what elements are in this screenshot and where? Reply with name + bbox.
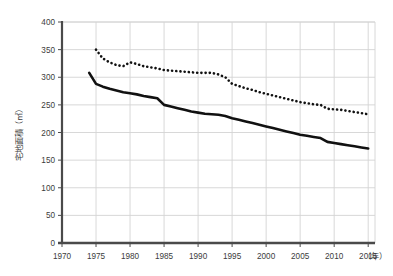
x-axis-unit-label: （年） xyxy=(363,251,387,261)
y-axis-tick-label: 300 xyxy=(41,73,55,82)
x-axis-tick-label: 2000 xyxy=(257,252,276,261)
y-axis-tick-label: 0 xyxy=(50,239,55,248)
x-axis-tick-label: 1975 xyxy=(87,252,106,261)
y-axis-tick-label: 50 xyxy=(46,211,56,220)
x-axis-tick-label: 1985 xyxy=(155,252,174,261)
land-area-line-chart: 050100150200250300350400 197019751980198… xyxy=(0,0,393,276)
y-axis-tick-label: 350 xyxy=(41,46,55,55)
x-axis-tick-label: 2010 xyxy=(325,252,344,261)
x-axis-tick-label: 2005 xyxy=(291,252,310,261)
x-axis-tick-label: 1980 xyxy=(121,252,140,261)
x-axis-tick-label: 1995 xyxy=(223,252,242,261)
y-axis-tick-label: 400 xyxy=(41,18,55,27)
chart-container: 050100150200250300350400 197019751980198… xyxy=(0,0,393,276)
y-axis-tick-label: 100 xyxy=(41,184,55,193)
y-axis-tick-label: 250 xyxy=(41,101,55,110)
y-axis-tick-label: 200 xyxy=(41,129,55,138)
y-axis-title: 宅地面積（㎡） xyxy=(14,105,24,161)
y-axis-tick-label: 150 xyxy=(41,156,55,165)
x-axis-tick-label: 1990 xyxy=(189,252,208,261)
x-axis-tick-label: 1970 xyxy=(53,252,72,261)
